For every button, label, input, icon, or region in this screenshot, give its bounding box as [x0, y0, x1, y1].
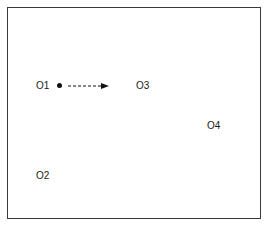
diagram-frame: [7, 7, 261, 219]
object-label-o3: O3: [136, 81, 149, 91]
object-label-o4: O4: [207, 121, 220, 131]
object-label-o2: O2: [36, 171, 49, 181]
object-o1-dot: [57, 83, 62, 88]
object-label-o1: O1: [36, 81, 49, 91]
dashed-arrow-icon: [67, 81, 111, 91]
